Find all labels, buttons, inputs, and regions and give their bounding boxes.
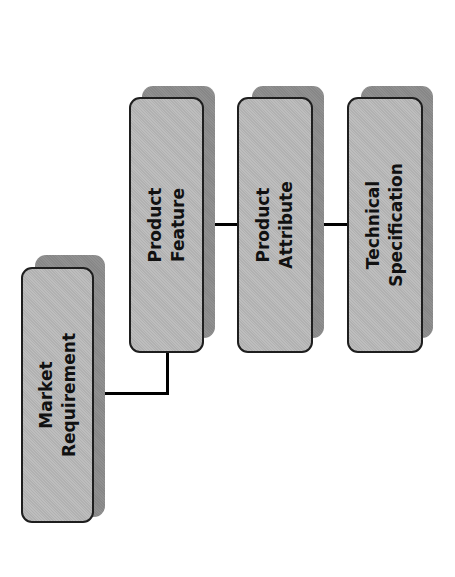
node-box: Product Attribute [237,97,313,353]
node-label: Technical Specification [362,163,408,287]
node-box: Technical Specification [347,97,423,353]
label-line-2: Attribute [275,181,298,269]
label-line-1: Market [35,333,58,457]
node-label: Market Requirement [35,333,81,457]
label-line-2: Specification [385,163,408,287]
label-line-2: Requirement [58,333,81,457]
label-line-2: Feature [167,188,190,263]
label-line-1: Product [252,181,275,269]
node-box: Market Requirement [21,267,94,523]
label-line-1: Product [144,188,167,263]
label-line-1: Technical [362,163,385,287]
connector-market-to-feature-vertical [166,350,169,395]
node-label: Product Attribute [252,181,298,269]
node-label: Product Feature [144,188,190,263]
node-box: Product Feature [129,97,204,353]
